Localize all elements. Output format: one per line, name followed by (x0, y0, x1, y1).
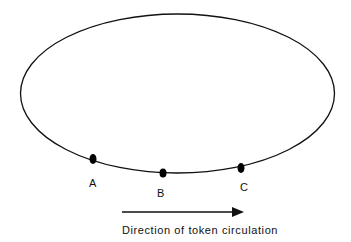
node-a-dot (90, 154, 97, 164)
ring (21, 14, 335, 173)
node-b-label: B (157, 187, 164, 199)
token-ring-diagram (0, 0, 351, 242)
node-c-label: C (240, 181, 248, 193)
caption: Direction of token circulation (100, 224, 300, 236)
arrow-right-icon (122, 207, 244, 217)
node-b-dot (160, 169, 167, 178)
node-c-dot (238, 163, 245, 173)
node-a-label: A (89, 177, 96, 189)
